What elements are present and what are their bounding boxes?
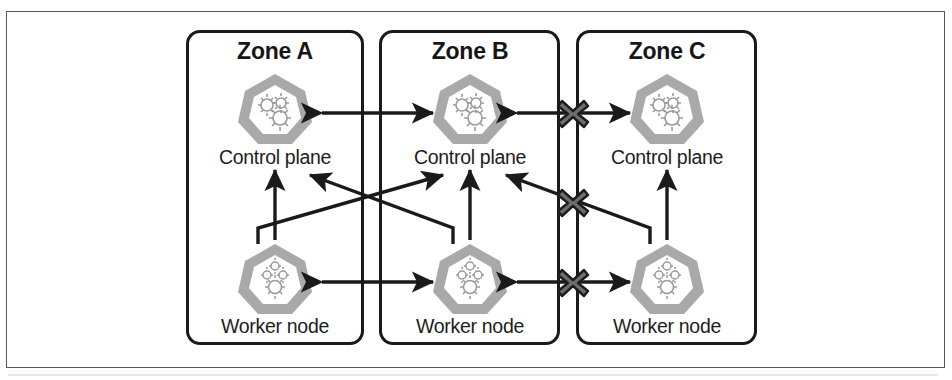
figure-canvas: Zone A Zone B Zone C <box>0 0 952 380</box>
worker-node-label-c: Worker node <box>572 315 762 337</box>
x-block-icon <box>556 266 590 300</box>
x-block-icon <box>556 97 590 131</box>
zone-title-a: Zone A <box>185 38 365 64</box>
kubernetes-worker-node-icon <box>431 242 509 316</box>
scan-artifact-line <box>8 374 938 376</box>
kubernetes-control-plane-icon <box>236 72 314 146</box>
x-block-icon <box>556 186 590 220</box>
worker-node-label-a: Worker node <box>180 315 370 337</box>
control-plane-label-a: Control plane <box>180 146 370 168</box>
control-plane-label-b: Control plane <box>375 146 565 168</box>
kubernetes-worker-node-icon <box>236 242 314 316</box>
kubernetes-worker-node-icon <box>628 242 706 316</box>
kubernetes-control-plane-icon <box>628 72 706 146</box>
zone-title-c: Zone C <box>577 38 757 64</box>
kubernetes-control-plane-icon <box>431 72 509 146</box>
zone-title-b: Zone B <box>380 38 560 64</box>
control-plane-label-c: Control plane <box>572 146 762 168</box>
worker-node-label-b: Worker node <box>375 315 565 337</box>
